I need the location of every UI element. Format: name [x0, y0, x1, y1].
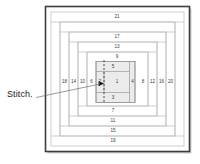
strip-number-15: 15 — [110, 128, 116, 133]
strip-number-5: 5 — [112, 64, 115, 69]
strip-number-17: 17 — [114, 34, 120, 39]
strip-number-7: 7 — [112, 108, 115, 113]
strip-number-8: 8 — [142, 79, 145, 84]
strip-number-9: 9 — [116, 54, 119, 59]
strip-number-14: 14 — [71, 79, 77, 84]
diagram-canvas: Stitch. — [0, 0, 200, 164]
strip-number-20: 20 — [168, 79, 174, 84]
strip-number-12: 12 — [150, 79, 156, 84]
strip-number-16: 16 — [159, 79, 165, 84]
strip-number-10: 10 — [80, 79, 86, 84]
strip-number-21: 21 — [114, 14, 120, 19]
strip-number-19: 19 — [110, 138, 116, 143]
strip-number-1: 1 — [116, 79, 119, 84]
strip-number-2: 2 — [99, 79, 102, 84]
diagram-vectors: 5 9 13 17 21 3 7 11 15 19 1 2 6 10 14 18… — [0, 0, 200, 164]
strip-number-4: 4 — [131, 79, 134, 84]
strip-number-3: 3 — [112, 95, 115, 100]
strip-number-6: 6 — [90, 79, 93, 84]
strip-number-13: 13 — [114, 44, 120, 49]
strip-number-18: 18 — [62, 79, 68, 84]
strip-number-11: 11 — [111, 118, 116, 123]
